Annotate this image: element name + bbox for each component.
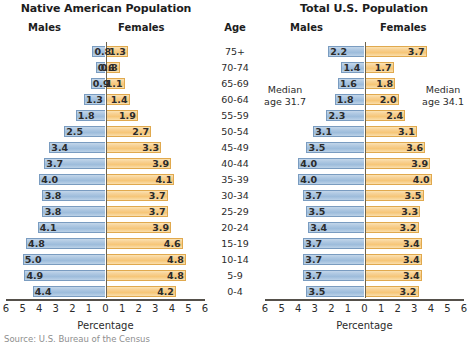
bar-value-male: 0.8 (6, 45, 111, 58)
bar-value-female: 1.8 (376, 77, 393, 90)
bar-value-female: 1.3 (109, 45, 126, 58)
bar-value-male: 3.7 (6, 157, 63, 170)
pyramid-row: 0.81.3 (6, 44, 205, 60)
bar-value-female: 4.8 (167, 269, 184, 282)
x-axis-tick: 3 (308, 303, 322, 314)
pyramid-row: 4.13.9 (6, 220, 205, 236)
pyramid-row: 3.73.4 (265, 252, 464, 268)
x-axis-tick: 2 (132, 303, 146, 314)
x-axis-line-native (6, 299, 205, 301)
x-axis-tick: 3 (148, 303, 162, 314)
x-axis-tick: 1 (82, 303, 96, 314)
age-label: 0-4 (212, 284, 258, 300)
bar-value-female: 3.2 (400, 221, 417, 234)
legend-females-total: Females (380, 22, 427, 33)
bar-value-male: 4.8 (6, 237, 45, 250)
bar-value-female: 2.7 (132, 125, 149, 138)
x-axis-tick: 6 (0, 303, 13, 314)
bar-value-male: 3.7 (265, 253, 322, 266)
pyramid-row: 0.91.1 (6, 76, 205, 92)
x-axis-tick: 3 (407, 303, 421, 314)
chart-panel-total-us: Total U.S. Population Males Females 2.23… (258, 0, 470, 343)
pyramid-row: 3.53.3 (265, 204, 464, 220)
x-axis-tick: 5 (16, 303, 30, 314)
age-label: 10-14 (212, 252, 258, 268)
legend-males-native: Males (28, 22, 61, 33)
bar-value-female: 2.0 (380, 93, 397, 106)
pyramid-row: 4.03.9 (265, 156, 464, 172)
x-axis-tick: 4 (291, 303, 305, 314)
pyramid-row: 2.52.7 (6, 124, 205, 140)
bar-value-male: 2.2 (265, 45, 347, 58)
x-axis-tick: 2 (65, 303, 79, 314)
bar-value-male: 3.4 (265, 221, 327, 234)
bar-value-male: 3.8 (6, 189, 61, 202)
bar-value-male: 3.5 (265, 205, 325, 218)
pyramid-row: 2.23.7 (265, 44, 464, 60)
bar-value-female: 3.4 (403, 253, 420, 266)
bar-value-female: 3.9 (411, 157, 428, 170)
bar-value-female: 3.1 (398, 125, 415, 138)
bar-value-male: 2.5 (6, 125, 83, 138)
pyramid-row: 1.41.7 (265, 60, 464, 76)
x-axis-title-total: Percentage (265, 320, 464, 331)
plot-area-native: 0.81.30.60.80.91.11.31.41.81.92.52.73.43… (6, 42, 205, 298)
x-axis-tick: 5 (440, 303, 454, 314)
median-age-males-annotation: Median age 31.7 (256, 84, 314, 108)
x-axis-tick: 0 (99, 303, 113, 314)
pyramid-row: 4.44.2 (6, 284, 205, 300)
bar-value-female: 1.9 (119, 109, 136, 122)
pyramid-row: 3.53.2 (265, 284, 464, 300)
x-axis-title-native: Percentage (6, 320, 205, 331)
pyramid-row: 4.84.6 (6, 236, 205, 252)
pyramid-row: 3.83.7 (6, 188, 205, 204)
bar-value-female: 3.7 (408, 45, 425, 58)
pyramid-row: 3.13.1 (265, 124, 464, 140)
x-axis-tick: 1 (341, 303, 355, 314)
age-label: 55-59 (212, 108, 258, 124)
chart-panel-native-american: Native American Population Males Females… (0, 0, 212, 343)
median-age-males-line1: Median (256, 84, 314, 96)
age-column-header: Age (212, 22, 258, 33)
x-axis-tick: 0 (358, 303, 372, 314)
bar-value-female: 3.7 (149, 205, 166, 218)
bar-value-male: 3.4 (6, 141, 68, 154)
bar-value-female: 0.8 (101, 61, 118, 74)
bar-value-male: 3.1 (265, 125, 332, 138)
pyramid-row: 4.04.1 (6, 172, 205, 188)
bar-value-male: 5.0 (6, 253, 42, 266)
x-axis-tick: 5 (181, 303, 195, 314)
x-axis-tick: 4 (32, 303, 46, 314)
age-label: 45-49 (212, 140, 258, 156)
pyramid-row: 3.43.3 (6, 140, 205, 156)
bar-value-female: 4.6 (164, 237, 181, 250)
x-axis-tick: 3 (49, 303, 63, 314)
pyramid-row: 4.04.0 (265, 172, 464, 188)
age-column: Age 75+70-7465-6960-6455-5950-5445-4940-… (212, 0, 258, 343)
bar-value-female: 3.9 (152, 221, 169, 234)
pyramid-row: 3.73.4 (265, 268, 464, 284)
x-axis-tick: 2 (324, 303, 338, 314)
age-label: 25-29 (212, 204, 258, 220)
bar-value-male: 3.5 (265, 141, 325, 154)
bar-value-male: 1.8 (6, 109, 95, 122)
pyramid-row: 3.73.4 (265, 236, 464, 252)
pyramid-row: 2.32.4 (265, 108, 464, 124)
age-label: 70-74 (212, 60, 258, 76)
bar-value-male: 0.6 (6, 61, 115, 74)
bar-value-female: 4.1 (155, 173, 172, 186)
median-age-females-annotation: Median age 34.1 (414, 84, 470, 108)
pyramid-row: 4.94.8 (6, 268, 205, 284)
panel-title-native-american: Native American Population (8, 2, 204, 15)
bar-value-male: 4.0 (265, 173, 317, 186)
x-axis-line-total (265, 299, 464, 301)
median-age-males-line2: age 31.7 (256, 96, 314, 108)
pyramid-row: 3.53.6 (265, 140, 464, 156)
panel-title-total-us: Total U.S. Population (264, 2, 464, 15)
pyramid-row: 3.73.5 (265, 188, 464, 204)
x-axis-tick: 4 (424, 303, 438, 314)
bar-value-female: 4.2 (157, 285, 174, 298)
bar-value-male: 3.5 (265, 285, 325, 298)
pyramid-row: 0.60.8 (6, 60, 205, 76)
bar-value-male: 4.0 (6, 173, 58, 186)
